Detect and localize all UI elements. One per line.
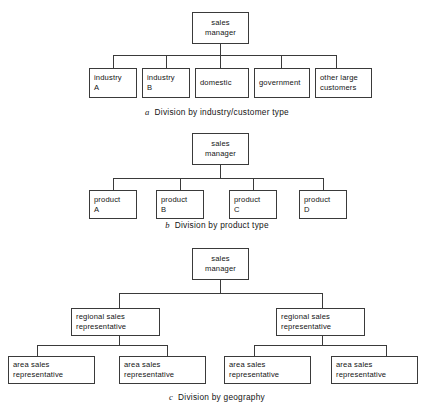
connector-bus-a <box>113 55 337 56</box>
node-sales-manager-b: sales manager <box>192 133 249 165</box>
connector-drop-b-3 <box>253 178 254 190</box>
connector-drop-c-area-4 <box>386 345 387 356</box>
connector-bus-c <box>119 293 322 294</box>
caption-diagram-c: cDivision by geography <box>0 392 434 402</box>
caption-diagram-a: aDivision by industry/customer type <box>0 107 434 117</box>
node-government: government <box>254 68 310 98</box>
caption-index-a: a <box>145 107 150 117</box>
node-sales-manager-a: sales manager <box>192 12 249 44</box>
diagram-product-type: sales manager product A product B produc… <box>0 125 434 240</box>
connector-drop-b-1 <box>113 178 114 190</box>
connector-drop-c-regional-1 <box>119 293 120 308</box>
diagram-geography: sales manager regional sales representat… <box>0 240 434 410</box>
connector-drop-c-area-3 <box>254 345 255 356</box>
node-regional-sales-representative-1: regional sales representative <box>71 308 160 336</box>
node-product-b: product B <box>156 190 204 219</box>
node-area-sales-representative-4: area sales representative <box>331 356 418 384</box>
node-area-sales-representative-1: area sales representative <box>8 356 95 384</box>
node-product-a: product A <box>89 190 137 219</box>
node-product-c: product C <box>229 190 277 219</box>
node-industry-a: industry A <box>89 68 137 98</box>
node-industry-b: industry B <box>142 68 190 98</box>
connector-drop-a-3 <box>220 55 221 68</box>
connector-drop-c-area-2 <box>167 345 168 356</box>
connector-bus-c-right <box>254 345 386 346</box>
caption-diagram-b: bDivision by product type <box>0 220 434 230</box>
connector-root-stem-c <box>220 280 221 294</box>
connector-drop-c-area-1 <box>37 345 38 356</box>
node-regional-sales-representative-2: regional sales representative <box>276 308 365 336</box>
connector-drop-a-2 <box>166 55 167 68</box>
connector-drop-a-1 <box>113 55 114 68</box>
connector-drop-b-2 <box>180 178 181 190</box>
caption-index-c: c <box>169 392 173 402</box>
node-area-sales-representative-2: area sales representative <box>119 356 206 384</box>
connector-root-stem-b <box>220 165 221 179</box>
node-domestic: domestic <box>195 68 249 98</box>
caption-text-a: Division by industry/customer type <box>155 107 289 117</box>
connector-drop-a-5 <box>336 55 337 68</box>
caption-text-b: Division by product type <box>175 220 269 230</box>
diagram-industry-customer-type: sales manager industry A industry B dome… <box>0 0 434 125</box>
caption-text-c: Division by geography <box>178 392 265 402</box>
node-sales-manager-c: sales manager <box>192 248 249 280</box>
connector-drop-b-4 <box>323 178 324 190</box>
node-other-large-customers: other large customers <box>315 68 372 98</box>
node-product-d: product D <box>299 190 347 219</box>
connector-bus-b <box>113 178 323 179</box>
connector-bus-c-left <box>37 345 167 346</box>
caption-index-b: b <box>165 220 170 230</box>
connector-drop-a-4 <box>281 55 282 68</box>
node-area-sales-representative-3: area sales representative <box>224 356 311 384</box>
connector-drop-c-regional-2 <box>322 293 323 308</box>
